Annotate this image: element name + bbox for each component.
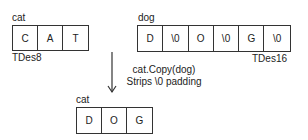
result-cell-0: D [77,108,102,133]
cat-cell-0: C [13,26,38,50]
dog-type-label: TDes16 [252,54,287,64]
cat-cell-2: T [63,26,88,50]
result-cell-2: G [127,108,152,133]
dog-cell-4: G [239,26,264,51]
result-cat-buffer: D O G [76,107,153,134]
dog-cell-2: O [189,26,214,51]
copy-call-text: cat.Copy(dog) [124,64,204,76]
dog-cell-1: \0 [163,26,188,51]
arrow-down-icon [106,52,118,94]
dog-cell-3: \0 [214,26,239,51]
cat-label: cat [12,13,25,23]
cat-type-label: TDes8 [12,53,41,63]
dog-label: dog [138,13,155,23]
result-cell-1: O [102,108,127,133]
result-cat-label: cat [76,95,89,105]
dog-cell-0: D [138,26,163,51]
cat-cell-1: A [38,26,63,50]
dog-cell-5: \0 [264,26,289,51]
dog-buffer: D \0 O \0 G \0 [137,25,291,52]
cat-buffer: C A T [12,25,89,51]
strip-note-text: Strips \0 padding [118,76,210,88]
